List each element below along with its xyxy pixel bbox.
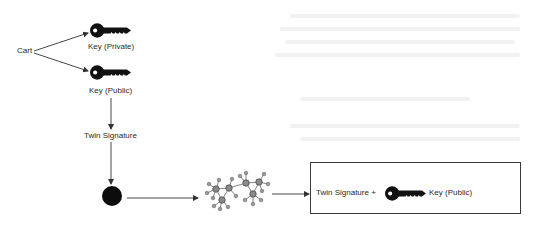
output-twin-signature-label: Twin Signature + (316, 188, 376, 198)
twin-signature-label: Twin Signature (84, 131, 137, 141)
private-key-icon (90, 23, 131, 37)
public-key-icon (90, 65, 131, 79)
private-key-label: Key (Private) (88, 42, 134, 52)
filled-circle-icon (102, 186, 122, 206)
edge-cart-to-private-key (34, 33, 88, 51)
public-key-label: Key (Public) (89, 86, 132, 96)
cart-label: Cart (17, 46, 32, 56)
output-public-key-label: Key (Public) (429, 188, 472, 198)
edge-cart-to-public-key (34, 53, 88, 71)
network-graph-icon (205, 171, 270, 211)
